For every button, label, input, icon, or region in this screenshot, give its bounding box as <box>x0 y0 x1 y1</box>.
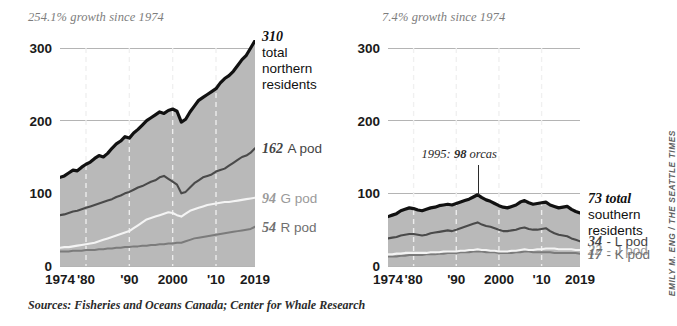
northern-callout-label-1-line3: residents <box>262 77 317 93</box>
southern-xtick-1990: '90 <box>447 272 465 287</box>
southern-xtick-1974: 1974 <box>373 272 403 287</box>
peak-suffix: orcas <box>470 147 497 161</box>
southern-callout-label-4: - K pod <box>606 247 650 262</box>
sources-note: Sources: Fisheries and Oceans Canada; Ce… <box>28 298 365 313</box>
peak-prefix: 1995: <box>422 147 451 161</box>
southern-ytick-100: 100 <box>346 186 380 201</box>
southern-ytick-300: 300 <box>346 41 380 56</box>
northern-callout-value-1: 310 <box>262 29 317 46</box>
credit-line: EMILY M. ENG / THE SEATTLE TIMES <box>667 130 677 296</box>
northern-callout-label-1-line2: northern <box>262 61 317 77</box>
northern-callout-value-3: 94 <box>262 191 276 206</box>
southern-callout-4: 17 - K pod <box>588 245 650 264</box>
southern-xtick-2010: '10 <box>532 272 550 287</box>
northern-xtick-1990: '90 <box>120 272 138 287</box>
northern-callout-label-3: G pod <box>280 191 317 206</box>
northern-xtick-2000: 2000 <box>158 272 188 287</box>
southern-callout-value-1: 73 total <box>588 191 643 208</box>
northern-xtick-1980: '80 <box>77 272 95 287</box>
southern-callout-label-1: southern <box>588 207 643 223</box>
northern-callout-1: 310totalnorthernresidents <box>262 29 317 93</box>
peak-leader-line <box>478 165 480 195</box>
southern-callout-value-4: 17 <box>588 247 602 262</box>
southern-xtick-2000: 2000 <box>484 272 514 287</box>
northern-chart-svg <box>60 40 255 270</box>
northern-callout-2: 162 A pod <box>262 139 322 158</box>
northern-ytick-300: 300 <box>18 41 52 56</box>
northern-callout-label-2: A pod <box>287 141 322 156</box>
southern-xtick-2019: 2019 <box>565 272 595 287</box>
northern-callout-value-2: 162 <box>262 141 283 156</box>
left-growth-label: 254.1% growth since 1974 <box>28 10 164 25</box>
northern-callout-3: 94 G pod <box>262 189 317 208</box>
northern-xtick-2010: '10 <box>207 272 225 287</box>
northern-callout-label-4: R pod <box>280 220 316 235</box>
northern-callout-value-4: 54 <box>262 220 276 235</box>
southern-ytick-200: 200 <box>346 113 380 128</box>
right-growth-label: 7.4% growth since 1974 <box>382 10 505 25</box>
northern-xtick-2019: 2019 <box>240 272 270 287</box>
southern-xtick-1980: '80 <box>404 272 422 287</box>
peak-value: 98 <box>454 147 467 161</box>
northern-plot-area <box>60 40 255 270</box>
northern-ytick-100: 100 <box>18 186 52 201</box>
northern-callout-label-1: total <box>262 45 317 61</box>
northern-callout-4: 54 R pod <box>262 218 316 237</box>
peak-annotation: 1995: 98 orcas <box>422 147 497 162</box>
northern-ytick-200: 200 <box>18 113 52 128</box>
northern-xtick-1974: 1974 <box>45 272 75 287</box>
